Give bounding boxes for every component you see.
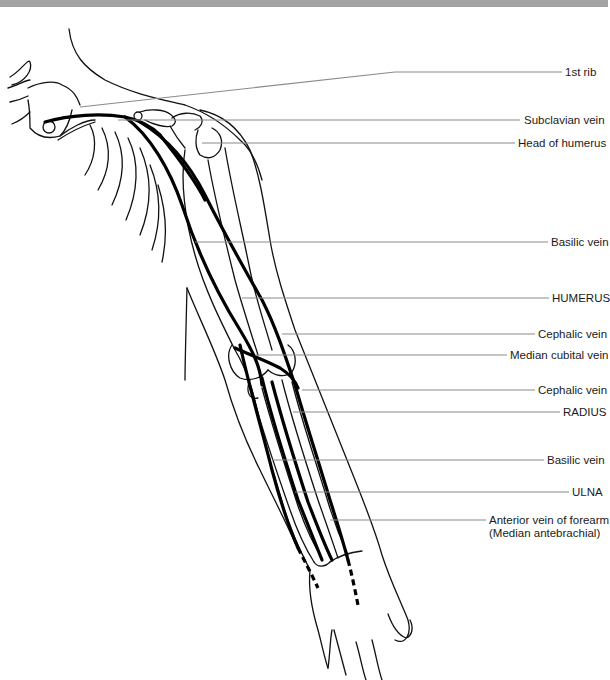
label-first-rib: 1st rib xyxy=(565,66,596,79)
label-median-cubital-vein: Median cubital vein xyxy=(510,349,608,362)
label-ulna: ULNA xyxy=(572,486,603,499)
label-subclavian-vein: Subclavian vein xyxy=(524,114,605,127)
label-median-antebrachial: (Median antebrachial) xyxy=(489,527,600,540)
label-cephalic-vein-lower: Cephalic vein xyxy=(538,384,607,397)
veins xyxy=(45,115,348,560)
label-basilic-vein-lower: Basilic vein xyxy=(547,454,605,467)
leader-lines xyxy=(80,72,569,520)
vein-dashed-continuations xyxy=(298,548,358,605)
label-head-of-humerus: Head of humerus xyxy=(518,137,606,150)
label-cephalic-vein-upper: Cephalic vein xyxy=(538,328,607,341)
label-anterior-vein-forearm: Anterior vein of forearm xyxy=(489,514,609,527)
label-humerus: HUMERUS xyxy=(552,292,610,305)
label-radius: RADIUS xyxy=(563,406,606,419)
label-basilic-vein-upper: Basilic vein xyxy=(551,236,609,249)
